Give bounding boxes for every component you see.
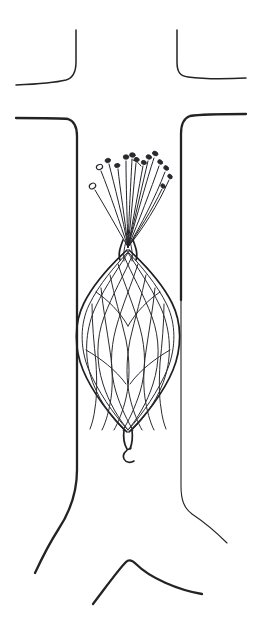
left-renal-vein-wall [16,30,76,85]
anchor-tip-ball-11 [157,159,164,165]
retrieval-hook-icon [123,448,134,462]
anchor-wire-11 [128,166,159,247]
anchor-tip-ball-13 [167,173,174,179]
anchor-tip-ball-9 [145,154,152,160]
mesh-outline-right-inner [129,253,174,429]
right-renal-vein-wall [177,30,246,79]
anchor-wires-group [88,150,173,247]
mesh-outline-left-inner [82,253,127,429]
anchor-tip-loop-1 [88,182,97,190]
mesh-strand-r3 [118,264,145,430]
vessel-left-wall-upper [16,118,77,300]
anchor-tip-ball-5 [123,155,129,160]
anchor-tip-ball-10 [152,150,159,156]
lower-center-branch-group [93,560,202,604]
anchor-wire-2 [101,171,128,247]
device-tail-right [130,430,132,449]
anchor-tip-ball-4 [114,163,120,168]
retrieval-hook-group [123,430,134,462]
anchor-tip-ball-8 [141,160,147,165]
mesh-outline-left [76,250,127,432]
anchor-tip-ball-12 [163,165,170,172]
median-branch-wall [93,560,202,604]
anchor-tip-loop-2 [96,163,104,170]
vessel-right-wall-upper [181,114,246,300]
mesh-strand-r6 [90,304,97,429]
vascular-illustration-svg [0,0,260,628]
device-tail-left [124,430,127,449]
vessel-left-wall-lower [35,300,77,573]
upper-branches-group [16,30,246,85]
mesh-outline-right [129,250,180,432]
mesh-strand-l6 [159,304,166,429]
illustration-canvas: Braided mesh filter device deployed in v… [0,0,260,628]
mesh-body-group [76,250,179,432]
mesh-strand-l3 [112,264,139,430]
anchor-tip-ball-3 [104,158,111,164]
anchor-tip-ball-6 [129,152,135,157]
vessel-right-wall-lower [181,300,227,543]
